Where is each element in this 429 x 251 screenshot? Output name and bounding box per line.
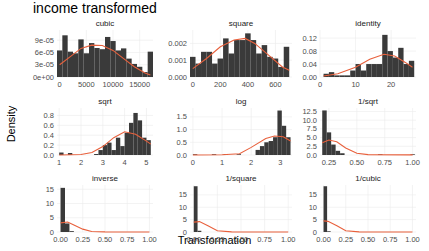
facet-title: cubic bbox=[96, 19, 115, 28]
y-tick-label: 0.00 bbox=[302, 73, 317, 82]
y-tick-label: 9e-05 bbox=[35, 36, 54, 45]
histogram-bar bbox=[212, 64, 218, 77]
histogram-bar bbox=[340, 153, 344, 155]
x-tick-label: 10000 bbox=[103, 80, 124, 89]
histogram-bar bbox=[229, 54, 235, 78]
x-tick-label: 3 bbox=[101, 158, 105, 167]
x-tick-label: 0.75 bbox=[383, 235, 398, 244]
histogram-bar bbox=[69, 231, 73, 232]
histogram-bar bbox=[201, 52, 207, 77]
histogram-bar bbox=[107, 143, 111, 155]
facet-1inv-cubic: 1/cubic0.000.250.500.751.00051015 bbox=[309, 174, 420, 244]
facet-title: square bbox=[229, 19, 254, 28]
y-tick-label: 2.5 bbox=[307, 142, 317, 151]
histogram-bar bbox=[404, 64, 409, 77]
x-tick-label: 0 bbox=[318, 80, 322, 89]
y-tick-label: 0.0 bbox=[44, 151, 54, 160]
x-tick-label: 600 bbox=[269, 80, 282, 89]
facet-title: log bbox=[236, 97, 247, 106]
x-tick-label: 1.00 bbox=[142, 235, 157, 244]
y-tick-label: 3e-05 bbox=[35, 60, 54, 69]
x-tick-label: 2 bbox=[249, 158, 253, 167]
y-tick-label: 0 bbox=[183, 228, 187, 237]
x-tick-label: 0.25 bbox=[75, 235, 90, 244]
facet-identity: identity010200.000.040.080.12 bbox=[302, 19, 416, 89]
histogram-bar bbox=[377, 64, 382, 77]
histogram-bar bbox=[260, 146, 264, 155]
y-tick-label: 0.04 bbox=[302, 60, 317, 69]
histogram-bar bbox=[121, 48, 126, 77]
histogram-bar bbox=[269, 141, 273, 155]
facet-1inv-square: 1/square0.000.250.500.751.00051015 bbox=[179, 174, 296, 244]
histogram-bar bbox=[251, 40, 257, 77]
x-tick-label: 400 bbox=[242, 80, 255, 89]
histogram-bar bbox=[277, 111, 281, 155]
histogram-bar bbox=[350, 71, 355, 77]
x-tick-label: 1 bbox=[220, 158, 224, 167]
histogram-bar bbox=[322, 110, 326, 155]
y-tick-label: 1.5 bbox=[177, 112, 187, 121]
histogram-bar bbox=[409, 61, 414, 77]
histogram-bar bbox=[340, 75, 345, 77]
y-tick-label: 0.08 bbox=[302, 47, 317, 56]
y-tick-label: 0.0 bbox=[307, 151, 317, 160]
y-tick-label: 0 bbox=[50, 228, 54, 237]
histogram-bar bbox=[116, 138, 120, 155]
histogram-bar bbox=[284, 47, 290, 77]
y-tick-label: 6e-05 bbox=[35, 48, 54, 57]
histogram-bar bbox=[112, 150, 116, 155]
histogram-bar bbox=[105, 37, 110, 77]
histogram-bar bbox=[393, 58, 398, 77]
y-tick-label: 0.002 bbox=[168, 39, 187, 48]
x-tick-label: 0.00 bbox=[186, 235, 201, 244]
x-tick-label: 5000 bbox=[78, 80, 95, 89]
y-tick-label: 0.000 bbox=[168, 73, 187, 82]
y-tick-label: 10 bbox=[309, 203, 317, 212]
y-tick-label: 15 bbox=[309, 190, 317, 199]
x-tick-label: 0.75 bbox=[120, 235, 135, 244]
x-tick-label: 0.00 bbox=[316, 235, 331, 244]
histogram-bar bbox=[372, 64, 377, 77]
facet-plot-area: cubic0500010000150000e+003e-056e-059e-05… bbox=[0, 0, 429, 251]
y-tick-label: 5 bbox=[313, 215, 317, 224]
histogram-bar bbox=[98, 150, 102, 155]
x-tick-label: 1.00 bbox=[405, 158, 420, 167]
histogram-bar bbox=[336, 151, 340, 155]
histogram-bar bbox=[89, 43, 94, 77]
y-tick-label: 0.2 bbox=[44, 141, 54, 150]
y-tick-label: 12.5 bbox=[302, 107, 317, 116]
x-tick-label: 0.50 bbox=[98, 235, 113, 244]
histogram-bar bbox=[65, 223, 69, 232]
x-tick-label: 3 bbox=[278, 158, 282, 167]
histogram-bar bbox=[62, 35, 67, 77]
x-tick-label: 0.75 bbox=[377, 158, 392, 167]
histogram-bar bbox=[218, 59, 224, 77]
histogram-bar bbox=[382, 35, 387, 77]
histogram-bar bbox=[240, 40, 246, 77]
y-tick-label: 0.5 bbox=[177, 138, 187, 147]
histogram-bar bbox=[282, 126, 286, 155]
x-tick-label: 0 bbox=[58, 80, 62, 89]
histogram-bar bbox=[398, 48, 403, 77]
x-tick-label: 10 bbox=[351, 80, 359, 89]
facet-sqrt: sqrt123450.00.20.40.60.8 bbox=[44, 97, 153, 167]
x-tick-label: 1.00 bbox=[281, 235, 296, 244]
x-tick-label: 0.50 bbox=[350, 158, 365, 167]
y-tick-label: 0.8 bbox=[44, 111, 54, 120]
y-tick-label: 1.0 bbox=[177, 125, 187, 134]
histogram-bar bbox=[129, 123, 133, 155]
histogram-bar bbox=[331, 145, 335, 155]
histogram-bar bbox=[194, 186, 198, 232]
x-tick-label: 20 bbox=[387, 80, 395, 89]
histogram-bar bbox=[278, 67, 284, 77]
facet-log: log01230.00.51.01.5 bbox=[177, 97, 292, 167]
histogram-bar bbox=[78, 39, 83, 77]
y-tick-label: 7.5 bbox=[307, 124, 317, 133]
x-tick-label: 0.50 bbox=[234, 235, 249, 244]
histogram-bar bbox=[120, 146, 124, 155]
histogram-bar bbox=[327, 231, 331, 232]
facet-title: 1/sqrt bbox=[358, 97, 379, 106]
facet-title: sqrt bbox=[98, 97, 112, 106]
y-tick-label: 5.0 bbox=[307, 133, 317, 142]
x-tick-label: 1 bbox=[57, 158, 61, 167]
